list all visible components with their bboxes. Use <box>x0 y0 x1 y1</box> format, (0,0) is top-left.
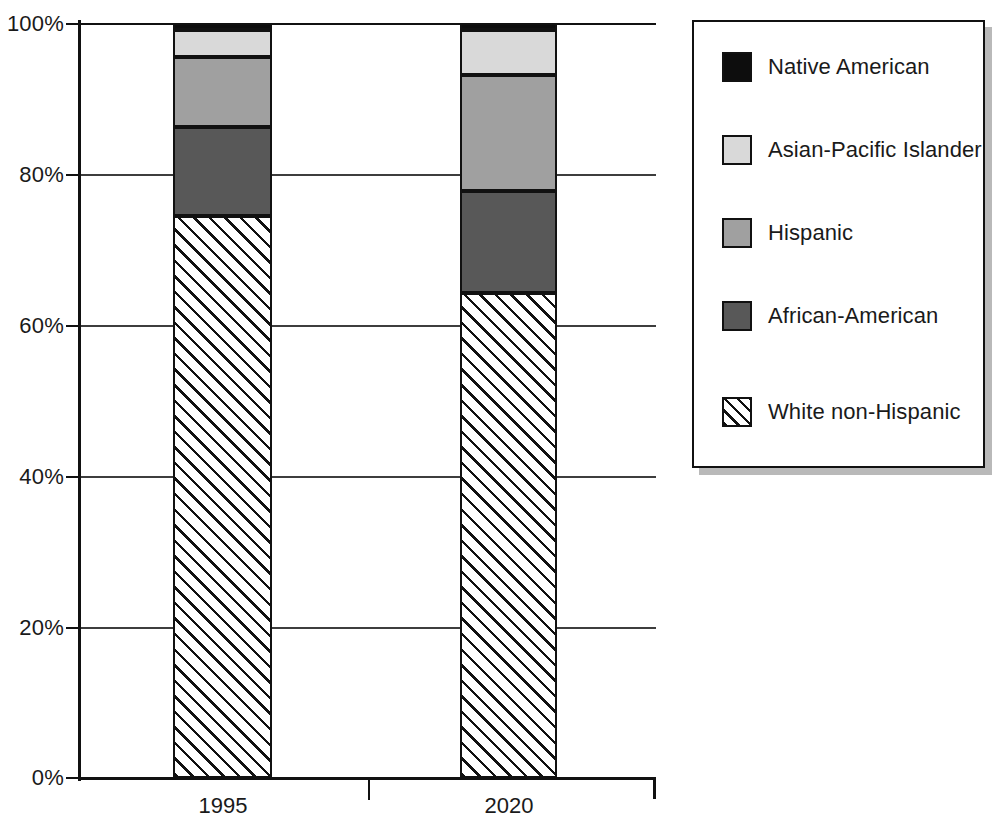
bar-segment-hispanic[interactable] <box>460 75 557 191</box>
bar-segment-hispanic[interactable] <box>173 57 272 127</box>
legend-item-white-non-hispanic[interactable]: White non-Hispanic <box>722 395 961 429</box>
legend-item-label: Asian-Pacific Islander <box>768 137 982 163</box>
legend-item-asian-pacific-islander[interactable]: Asian-Pacific Islander <box>722 133 982 167</box>
black-swatch-icon <box>722 52 752 82</box>
bar-segment-asian-pacific-islander[interactable] <box>460 30 557 75</box>
bar-segment-african-american[interactable] <box>460 191 557 293</box>
x-axis-end-cap <box>653 777 656 799</box>
bar-segment-native-american[interactable] <box>460 23 557 30</box>
bar-segment-white-non-hispanic[interactable] <box>173 216 272 778</box>
legend-item-label: Hispanic <box>768 220 853 246</box>
legend-item-african-american[interactable]: African-American <box>722 299 938 333</box>
y-tick-label-text: 20% <box>2 615 64 641</box>
stacked-bar-chart: 100% 80% 60% 40% 20% 0% <box>0 0 999 833</box>
hatched-swatch-icon <box>722 397 752 427</box>
x-axis-label-2020: 2020 <box>429 793 589 819</box>
y-tick-label-text: 0% <box>2 765 64 791</box>
bar-segment-asian-pacific-islander[interactable] <box>173 30 272 57</box>
y-tick-label-text: 40% <box>2 464 64 490</box>
legend: Native American Asian-Pacific Islander H… <box>692 20 985 468</box>
medium-gray-swatch-icon <box>722 218 752 248</box>
bar-segment-african-american[interactable] <box>173 127 272 216</box>
bar-segment-native-american[interactable] <box>173 23 272 30</box>
dark-gray-swatch-icon <box>722 301 752 331</box>
legend-item-native-american[interactable]: Native American <box>722 50 930 84</box>
plot-area <box>78 23 656 778</box>
x-tick-mark-mid <box>368 780 370 800</box>
legend-item-label: Native American <box>768 54 930 80</box>
legend-item-hispanic[interactable]: Hispanic <box>722 216 853 250</box>
legend-item-label: White non-Hispanic <box>768 399 961 425</box>
legend-item-label: African-American <box>768 303 938 329</box>
x-axis-label-1995: 1995 <box>143 793 303 819</box>
y-tick-label-text: 60% <box>2 313 64 339</box>
y-tick-label-text: 100% <box>2 11 64 37</box>
bar-2020[interactable] <box>460 23 557 778</box>
bar-1995[interactable] <box>173 23 272 778</box>
light-gray-swatch-icon <box>722 135 752 165</box>
bar-segment-white-non-hispanic[interactable] <box>460 293 557 778</box>
y-tick-label-text: 80% <box>2 162 64 188</box>
